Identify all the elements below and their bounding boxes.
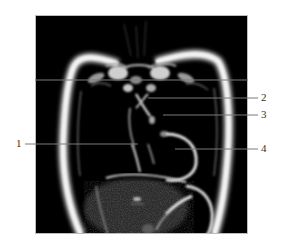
mri-image — [35, 15, 248, 234]
callout-label-2: 2 — [261, 92, 267, 103]
callout-label-4: 4 — [261, 143, 267, 154]
mri-figure: 1 2 3 4 — [0, 0, 283, 249]
mri-anatomy-illustration — [36, 16, 248, 234]
callout-label-1: 1 — [16, 138, 22, 149]
callout-label-3: 3 — [261, 109, 267, 120]
